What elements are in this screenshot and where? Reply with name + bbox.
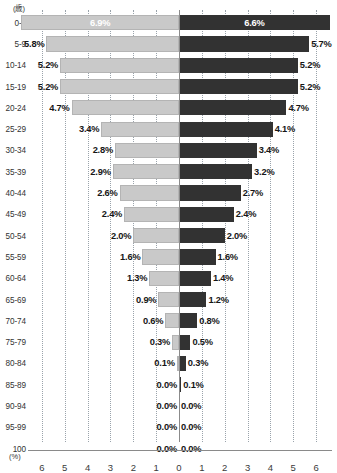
bar-pair: 2.6%2.7% <box>0 182 337 203</box>
bar-left <box>46 36 179 51</box>
bar-value-right: 0.0% <box>181 422 201 432</box>
bar-pair: 0.3%0.5% <box>0 332 337 353</box>
bar-right <box>179 292 206 307</box>
bar-left <box>120 185 179 200</box>
bar-right <box>179 249 216 264</box>
bar-row: 40-442.6%2.7% <box>0 182 337 203</box>
bar-value-right: 3.4% <box>259 145 279 155</box>
bar-left <box>172 335 179 350</box>
bar-right <box>179 228 225 243</box>
bar-row: 45-492.4%2.4% <box>0 204 337 225</box>
bar-pair: 0.0%0.0% <box>0 438 337 459</box>
bar-row: 20-244.7%4.7% <box>0 97 337 118</box>
bar-value-left: 2.8% <box>93 145 113 155</box>
bar-row: 85-890.0%0.1% <box>0 374 337 395</box>
bar-row: 80-840.1%0.3% <box>0 353 337 374</box>
bar-left <box>60 79 179 94</box>
x-tick-label: 1 <box>199 462 204 473</box>
bar-row: 65-690.9%1.2% <box>0 289 337 310</box>
bar-value-right: 4.7% <box>288 103 308 113</box>
x-tick-label: 4 <box>85 462 90 473</box>
bar-value-right: 0.0% <box>181 444 201 454</box>
bar-value-right: 3.2% <box>254 167 274 177</box>
bar-pair: 2.4%2.4% <box>0 204 337 225</box>
x-axis-line <box>28 450 332 451</box>
bar-value-right: 2.7% <box>243 188 263 198</box>
bar-left <box>142 249 179 264</box>
bar-row: 90-940.0%0.0% <box>0 395 337 416</box>
bar-value-left: 6.9% <box>90 18 110 28</box>
bar-pair: 1.3%1.4% <box>0 268 337 289</box>
bar-row: 75-790.3%0.5% <box>0 332 337 353</box>
bar-pair: 4.7%4.7% <box>0 97 337 118</box>
bar-value-left: 2.9% <box>90 167 110 177</box>
bar-value-left: 2.4% <box>102 209 122 219</box>
bar-right <box>179 313 197 328</box>
bar-right <box>179 143 257 158</box>
bar-row: 1000.0%0.0% <box>0 438 337 459</box>
bar-pair: 0.0%0.0% <box>0 417 337 438</box>
bar-right <box>179 79 298 94</box>
bar-left <box>60 58 179 73</box>
bar-row: 0-46.9%6.6% <box>0 12 337 33</box>
bar-left <box>115 143 179 158</box>
bar-pair: 0.1%0.3% <box>0 353 337 374</box>
bar-value-left: 5.2% <box>38 60 58 70</box>
bar-row: 30-342.8%3.4% <box>0 140 337 161</box>
bar-value-left: 5.2% <box>38 82 58 92</box>
bar-pair: 6.9%6.6% <box>0 12 337 33</box>
x-tick-label: 1 <box>153 462 158 473</box>
bar-row: 15-195.2%5.2% <box>0 76 337 97</box>
bar-left <box>113 164 179 179</box>
bar-value-right: 0.8% <box>199 316 219 326</box>
x-tick-label: 2 <box>222 462 227 473</box>
x-tick-label: 5 <box>291 462 296 473</box>
bar-pair: 2.0%2.0% <box>0 225 337 246</box>
bar-value-left: 0.3% <box>150 337 170 347</box>
bar-value-left: 1.3% <box>127 273 147 283</box>
bar-right <box>179 185 241 200</box>
bar-value-left: 4.7% <box>49 103 69 113</box>
bar-value-right: 5.2% <box>300 60 320 70</box>
bar-pair: 0.6%0.8% <box>0 310 337 331</box>
x-tick-label: 0 <box>176 462 181 473</box>
bar-pair: 0.0%0.1% <box>0 374 337 395</box>
bar-row: 95-990.0%0.0% <box>0 417 337 438</box>
bar-value-left: 0.0% <box>157 422 177 432</box>
bar-pair: 2.8%3.4% <box>0 140 337 161</box>
bar-row: 25-293.4%4.1% <box>0 119 337 140</box>
bar-row: 50-542.0%2.0% <box>0 225 337 246</box>
bar-right <box>179 335 190 350</box>
bar-right <box>179 100 286 115</box>
plot-area: 0-46.9%6.6%5-95.8%5.7%10-145.2%5.2%15-19… <box>0 10 337 446</box>
bar-row: 70-740.6%0.8% <box>0 310 337 331</box>
bar-right <box>179 271 211 286</box>
bar-pair: 5.2%5.2% <box>0 76 337 97</box>
bar-value-left: 0.0% <box>157 401 177 411</box>
x-tick-label: 3 <box>245 462 250 473</box>
bar-pair: 0.9%1.2% <box>0 289 337 310</box>
bar-left <box>133 228 179 243</box>
bar-row: 5-95.8%5.7% <box>0 33 337 54</box>
bar-value-left: 3.4% <box>79 124 99 134</box>
bar-pair: 1.6%1.6% <box>0 246 337 267</box>
bar-value-left: 0.6% <box>143 316 163 326</box>
bar-row: 10-145.2%5.2% <box>0 55 337 76</box>
x-tick-label: 3 <box>108 462 113 473</box>
bar-value-left: 1.6% <box>120 252 140 262</box>
bar-left <box>72 100 179 115</box>
bar-pair: 5.8%5.7% <box>0 33 337 54</box>
bar-pair: 5.2%5.2% <box>0 55 337 76</box>
bar-value-right: 5.2% <box>300 82 320 92</box>
bar-right <box>179 36 309 51</box>
bar-left <box>124 207 179 222</box>
bar-row: 60-641.3%1.4% <box>0 268 337 289</box>
bar-value-left: 2.6% <box>97 188 117 198</box>
bar-right <box>179 164 252 179</box>
bar-row: 55-591.6%1.6% <box>0 246 337 267</box>
bar-row: 35-392.9%3.2% <box>0 161 337 182</box>
bar-left <box>149 271 179 286</box>
bar-value-right: 2.4% <box>236 209 256 219</box>
bar-value-left: 0.0% <box>157 380 177 390</box>
